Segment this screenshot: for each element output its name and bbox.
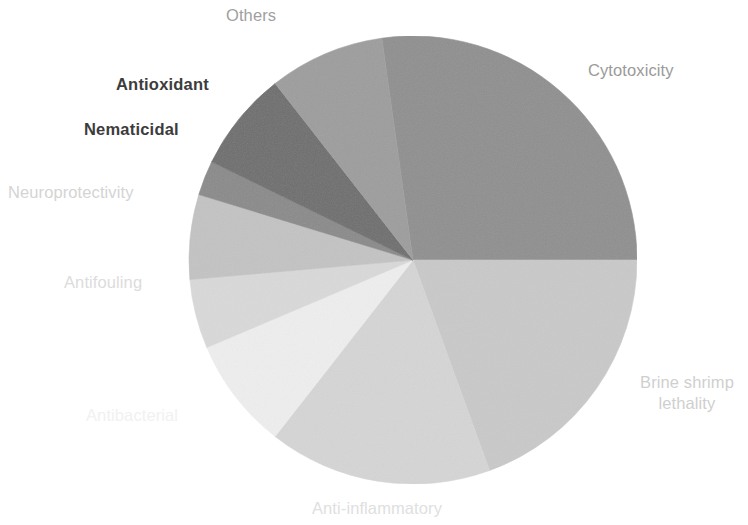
pie-label-antioxidant: Antioxidant bbox=[116, 74, 209, 95]
pie-label-nematicidal: Nematicidal bbox=[84, 119, 179, 140]
pie-slices bbox=[189, 36, 637, 484]
pie-label-antifouling: Antifouling bbox=[64, 272, 142, 293]
pie-label-anti-inflammatory: Anti-inflammatory bbox=[257, 498, 497, 519]
pie-label-neuroprotectivity: Neuroprotectivity bbox=[8, 182, 134, 203]
pie-chart-figure: Cytotoxicity Brine shrimp lethality Anti… bbox=[0, 0, 748, 525]
pie-label-cytotoxicity: Cytotoxicity bbox=[588, 60, 674, 81]
pie-label-antibacterial: Antibacterial bbox=[86, 405, 178, 426]
pie-label-others: Others bbox=[226, 5, 276, 26]
pie-label-brine-shrimp-lethality: Brine shrimp lethality bbox=[628, 372, 746, 414]
